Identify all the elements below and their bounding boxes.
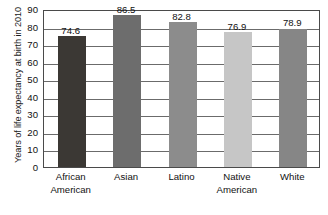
x-axis-category-label-line: Latino	[154, 171, 209, 184]
bar	[58, 36, 86, 167]
y-axis-tick-label: 50	[14, 75, 38, 85]
x-axis-category-label-line: Asian	[98, 171, 153, 184]
y-axis-tick-label: 20	[14, 128, 38, 138]
bar-value-label: 86.5	[106, 4, 146, 15]
bar	[113, 15, 141, 167]
x-axis-category-label: White	[265, 171, 320, 184]
y-axis-tick-label: 60	[14, 58, 38, 68]
x-axis-category-label: AfricanAmerican	[43, 171, 98, 196]
y-axis-tick-label: 30	[14, 110, 38, 120]
bar-value-label: 74.6	[51, 25, 91, 36]
x-axis-category-label-line: Native	[209, 171, 264, 184]
y-axis-tick-label: 80	[14, 23, 38, 33]
y-axis-tick-label: 70	[14, 40, 38, 50]
y-axis-tick-labels: 9080706050403020100	[14, 10, 38, 168]
y-axis-tick-label: 0	[14, 163, 38, 173]
bar-value-label: 82.8	[162, 11, 202, 22]
bar-value-label: 76.9	[217, 21, 257, 32]
bar	[169, 22, 197, 167]
x-axis-category-label-line: American	[43, 184, 98, 197]
bar	[279, 29, 307, 168]
y-axis-tick-label: 40	[14, 93, 38, 103]
x-axis-category-label-line: African	[43, 171, 98, 184]
x-axis-category-label-line: American	[209, 184, 264, 197]
y-axis-tick-label: 10	[14, 145, 38, 155]
x-axis-category-labels: AfricanAmericanAsianLatinoNativeAmerican…	[43, 171, 320, 213]
bar-chart: Years of life expectancy at birth in 201…	[0, 0, 328, 215]
x-axis-category-label-line: White	[265, 171, 320, 184]
x-axis-category-label: NativeAmerican	[209, 171, 264, 196]
bar	[224, 32, 252, 167]
x-axis-category-label: Latino	[154, 171, 209, 184]
x-axis-category-label: Asian	[98, 171, 153, 184]
y-axis-tick-label: 90	[14, 5, 38, 15]
bar-value-label: 78.9	[272, 17, 312, 28]
